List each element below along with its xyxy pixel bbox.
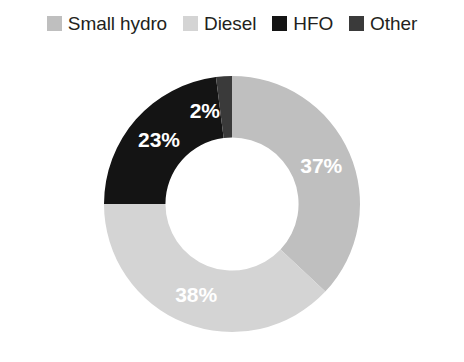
legend-item-small-hydro[interactable]: Small hydro xyxy=(47,14,167,33)
donut-slice-small-hydro[interactable] xyxy=(232,76,360,292)
legend-label-other: Other xyxy=(370,14,417,33)
legend-swatch-small-hydro xyxy=(47,16,62,31)
legend-item-diesel[interactable]: Diesel xyxy=(183,14,256,33)
legend-item-hfo[interactable]: HFO xyxy=(272,14,333,33)
legend-swatch-hfo xyxy=(272,16,287,31)
donut-plot-area: 37%38%23%2% xyxy=(102,74,362,334)
donut-value-label-hfo: 23% xyxy=(138,128,180,151)
donut-value-label-small-hydro: 37% xyxy=(300,154,342,177)
legend-swatch-other xyxy=(349,16,364,31)
legend-item-other[interactable]: Other xyxy=(349,14,417,33)
legend-label-small-hydro: Small hydro xyxy=(68,14,167,33)
donut-svg: 37%38%23%2% xyxy=(102,74,362,334)
chart-legend: Small hydro Diesel HFO Other xyxy=(0,6,464,40)
legend-label-hfo: HFO xyxy=(293,14,333,33)
donut-chart-figure: Small hydro Diesel HFO Other 37%38%23%2% xyxy=(0,0,464,362)
legend-label-diesel: Diesel xyxy=(204,14,256,33)
donut-slice-diesel[interactable] xyxy=(104,204,325,332)
donut-value-label-other: 2% xyxy=(190,99,221,122)
donut-value-label-diesel: 38% xyxy=(175,283,217,306)
donut-slice-group xyxy=(104,76,360,332)
legend-swatch-diesel xyxy=(183,16,198,31)
